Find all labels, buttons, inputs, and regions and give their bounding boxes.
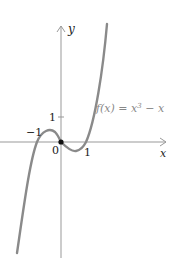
origin-point [58, 139, 63, 144]
function-label: f(x) = x3 − x [95, 102, 165, 115]
y-tick-label-1: 1 [49, 111, 56, 124]
x-axis-label: x [160, 147, 167, 160]
x-tick-label-0: 0 [52, 144, 59, 157]
y-axis-label: y [67, 22, 75, 36]
cubic-function-graph: y x 1 −1 0 1 f(x) = x3 − x [0, 0, 174, 272]
x-tick-label-1: 1 [84, 146, 91, 159]
x-tick-label-neg1: −1 [26, 126, 42, 139]
